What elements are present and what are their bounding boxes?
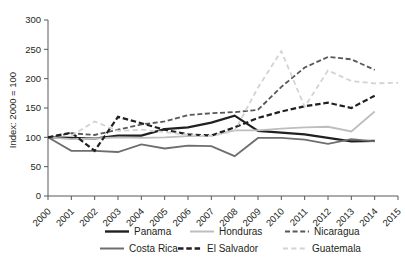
x-tick-label: 2006 xyxy=(170,206,193,229)
y-axis-title: Index: 2000 = 100 xyxy=(7,72,18,148)
y-tick-label: 50 xyxy=(30,161,41,172)
y-tick-label: 300 xyxy=(25,14,41,25)
chart-figure: Index: 2000 = 100 050100150200250300 200… xyxy=(0,0,405,267)
x-tick-label: 2015 xyxy=(380,206,403,229)
y-tick-label: 0 xyxy=(36,190,41,201)
chart-legend: PanamaHondurasNicaraguaCosta RicaEl Salv… xyxy=(100,226,361,254)
legend-label-panama: Panama xyxy=(134,226,172,237)
line-chart: Index: 2000 = 100 050100150200250300 200… xyxy=(0,0,405,267)
y-tick-label: 250 xyxy=(25,44,41,55)
x-tick-label: 2007 xyxy=(194,206,217,229)
legend-label-costa-rica: Costa Rica xyxy=(129,243,178,254)
data-series xyxy=(48,51,398,156)
legend-label-el-salvador: El Salvador xyxy=(207,243,259,254)
x-axis-ticks: 2000200120022003200420052006200720082009… xyxy=(30,196,403,228)
legend-label-guatemala: Guatemala xyxy=(312,243,361,254)
series-line-guatemala xyxy=(71,51,398,136)
x-tick-label: 2001 xyxy=(54,206,77,229)
x-tick-label: 2013 xyxy=(334,206,357,229)
y-axis-ticks: 050100150200250300 xyxy=(25,14,48,201)
x-tick-label: 2003 xyxy=(100,206,123,229)
legend-label-honduras: Honduras xyxy=(219,226,262,237)
y-tick-label: 200 xyxy=(25,73,41,84)
y-axis-title-label: Index: 2000 = 100 xyxy=(7,72,18,148)
y-tick-label: 100 xyxy=(25,132,41,143)
x-tick-label: 2002 xyxy=(77,206,100,229)
x-tick-label: 2000 xyxy=(30,206,53,229)
x-tick-label: 2004 xyxy=(124,206,147,229)
series-line-nicaragua xyxy=(48,57,375,137)
series-line-costa-rica xyxy=(48,137,375,156)
x-tick-label: 2009 xyxy=(240,206,263,229)
x-tick-label: 2010 xyxy=(264,206,287,229)
x-tick-label: 2005 xyxy=(147,206,170,229)
legend-label-nicaragua: Nicaragua xyxy=(314,226,360,237)
x-tick-label: 2014 xyxy=(357,206,380,229)
x-tick-label: 2011 xyxy=(287,206,309,228)
x-tick-label: 2012 xyxy=(310,206,333,229)
y-tick-label: 150 xyxy=(25,102,41,113)
x-tick-label: 2008 xyxy=(217,206,240,229)
